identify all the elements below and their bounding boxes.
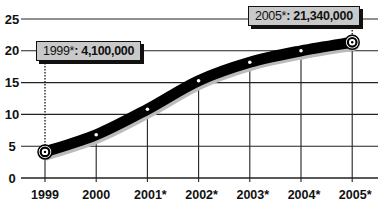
data-point [197,79,201,83]
x-tick-label: 2000 [82,188,110,202]
x-tick-label: 2003* [236,188,269,202]
callout-value: 21,340,000 [293,9,353,23]
callout-2005: 2005*: 21,340,000 [248,6,360,26]
y-tick-label: 25 [5,12,19,27]
line-chart: 0510152025 199920002001*2002*2003*2004*2… [0,0,383,208]
x-tick-label: 2004* [288,188,321,202]
y-tick-label: 5 [8,139,15,154]
callout-value: 4,100,000 [81,44,134,58]
y-tick-label: 10 [5,107,19,122]
endpoint-marker-dot [44,151,46,153]
data-point [146,108,150,112]
callout-1999: 1999*: 4,100,000 [36,41,141,61]
y-tick-label: 20 [5,43,19,58]
data-point [94,133,98,137]
x-tick-label: 2005* [339,188,372,202]
y-tick-label: 0 [8,171,15,186]
data-point [299,49,303,53]
callout-year: 2005* [255,9,286,23]
x-axis-ticks: 199920002001*2002*2003*2004*2005* [31,188,372,202]
callout-year: 1999* [43,44,74,58]
y-axis-ticks: 0510152025 [5,12,19,186]
y-tick-label: 15 [5,75,19,90]
endpoint-marker-dot [351,41,353,43]
x-tick-label: 2002* [185,188,218,202]
data-point [248,60,252,64]
x-tick-label: 2001* [134,188,167,202]
x-tick-label: 1999 [31,188,59,202]
